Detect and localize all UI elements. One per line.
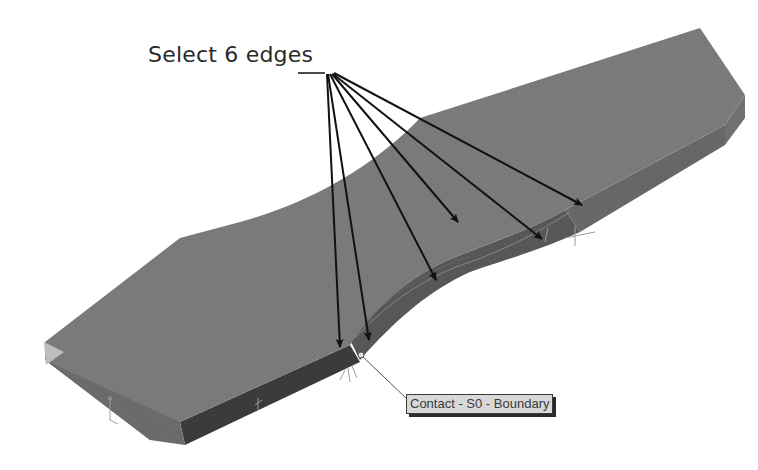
callout-anchor-point[interactable]: [358, 352, 364, 358]
part-model[interactable]: [0, 0, 758, 470]
select-edges-annotation: Select 6 edges: [148, 42, 313, 67]
callout-leader-line: [361, 355, 408, 400]
graphics-viewport[interactable]: Select 6 edges Contact - S0 - Boundary: [0, 0, 758, 470]
contact-boundary-callout[interactable]: Contact - S0 - Boundary: [406, 394, 553, 414]
top-face: [45, 28, 745, 440]
